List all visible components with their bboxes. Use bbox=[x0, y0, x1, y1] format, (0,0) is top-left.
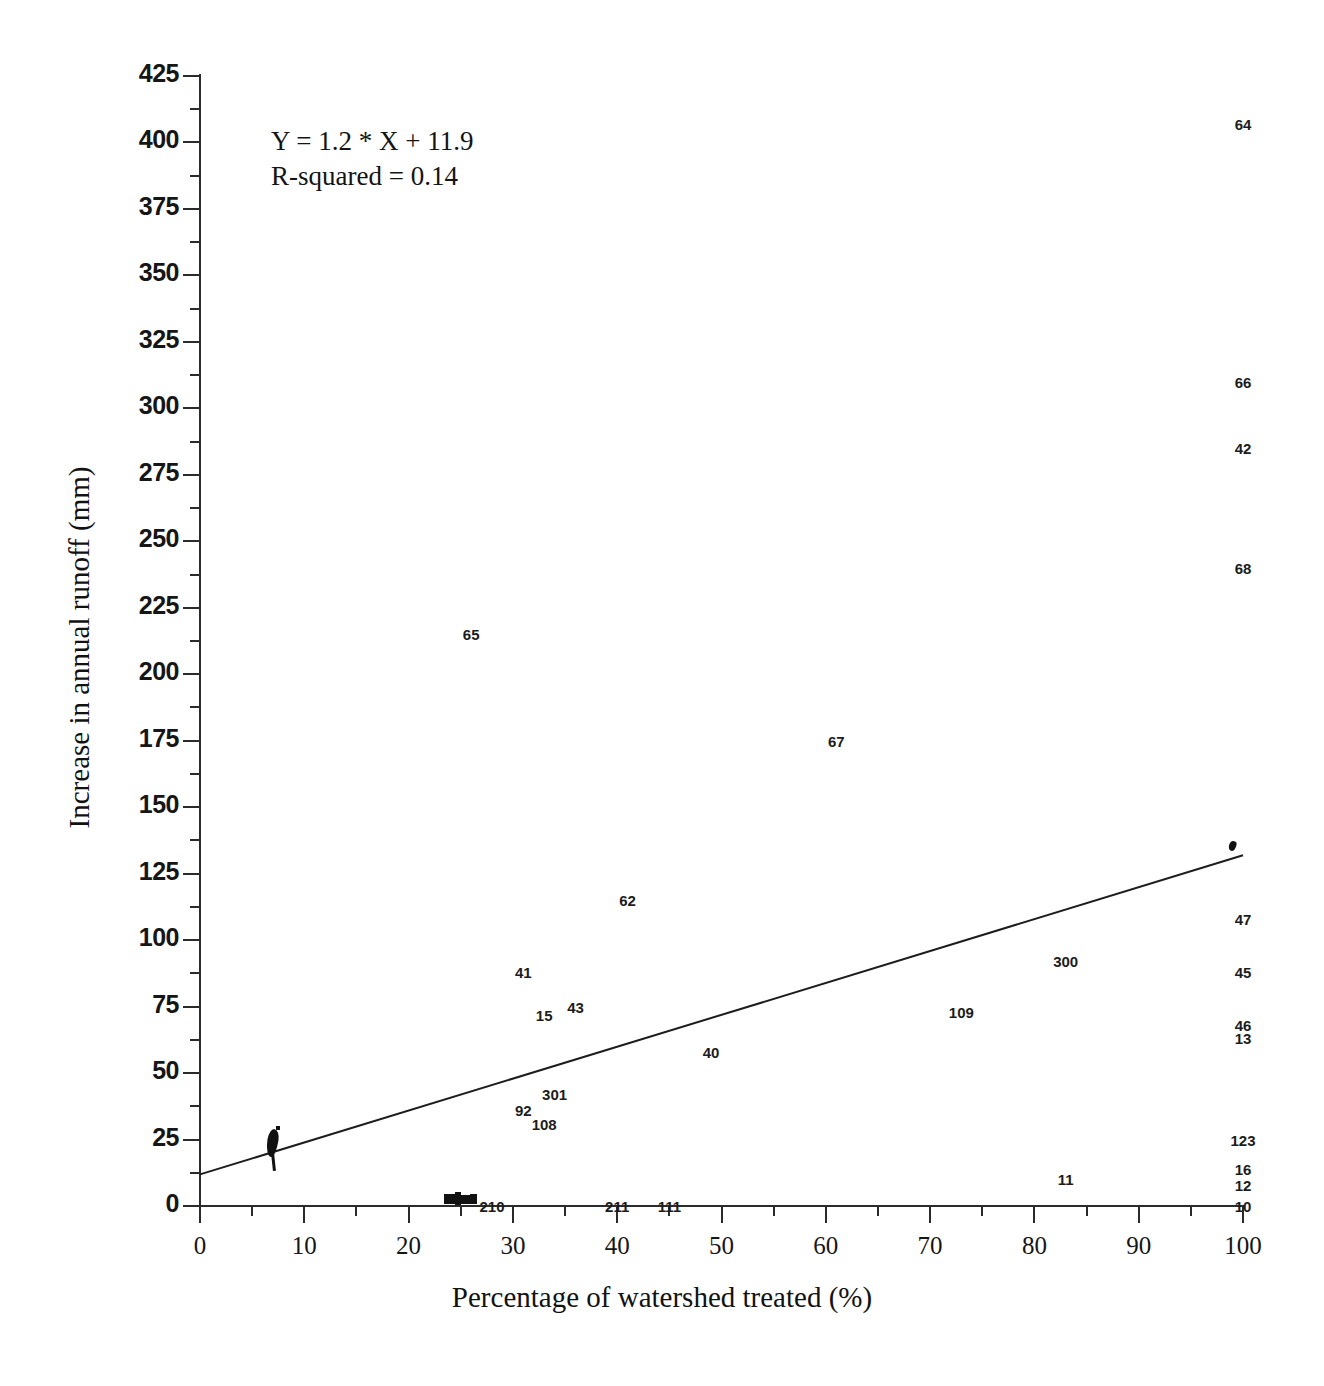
y-tick-label-425: 425 bbox=[139, 59, 179, 88]
x-tick-0 bbox=[199, 1206, 201, 1223]
data-point-label: 45 bbox=[1235, 964, 1252, 981]
data-point-label: 123 bbox=[1230, 1131, 1255, 1148]
y-minor-tick-175 bbox=[190, 706, 200, 708]
y-tick-label-125: 125 bbox=[139, 857, 179, 886]
data-point-label: 108 bbox=[532, 1115, 557, 1132]
x-tick-50 bbox=[721, 1206, 723, 1223]
y-minor-tick-150 bbox=[190, 773, 200, 775]
y-minor-tick-50 bbox=[190, 1039, 200, 1041]
y-tick-label-350: 350 bbox=[139, 258, 179, 287]
data-point-label: 43 bbox=[567, 998, 584, 1015]
y-tick-100 bbox=[183, 939, 200, 941]
y-tick-350 bbox=[183, 274, 200, 276]
overplotted-cluster-on-axis bbox=[444, 1190, 478, 1208]
r-squared-line: R-squared = 0.14 bbox=[271, 159, 473, 194]
regression-annotation: Y = 1.2 * X + 11.9 R-squared = 0.14 bbox=[271, 124, 473, 193]
cluster-blob-dot bbox=[276, 1126, 280, 1130]
y-minor-tick-25 bbox=[190, 1105, 200, 1107]
axis-cluster-mark-4 bbox=[470, 1194, 477, 1204]
x-tick-label-100: 100 bbox=[1224, 1232, 1262, 1260]
data-point-label: 301 bbox=[542, 1086, 567, 1103]
x-tick-label-0: 0 bbox=[194, 1232, 207, 1260]
y-minor-tick-275 bbox=[190, 441, 200, 443]
data-point-label: 62 bbox=[619, 892, 636, 909]
y-tick-label-50: 50 bbox=[152, 1056, 179, 1085]
y-minor-tick-125 bbox=[190, 839, 200, 841]
x-tick-10 bbox=[303, 1206, 305, 1223]
data-point-label: 47 bbox=[1235, 910, 1252, 927]
y-tick-label-25: 25 bbox=[152, 1123, 179, 1152]
y-tick-label-100: 100 bbox=[139, 923, 179, 952]
data-point-label: 16 bbox=[1235, 1160, 1252, 1177]
y-tick-label-225: 225 bbox=[139, 591, 179, 620]
data-point-label: 109 bbox=[949, 1003, 974, 1020]
data-point-label: 65 bbox=[463, 626, 480, 643]
y-tick-label-325: 325 bbox=[139, 325, 179, 354]
x-tick-80 bbox=[1033, 1206, 1035, 1223]
y-minor-tick-100 bbox=[190, 906, 200, 908]
data-point-label: 40 bbox=[703, 1043, 720, 1060]
x-tick-label-90: 90 bbox=[1126, 1232, 1151, 1260]
scatter-plot-figure: 4254003753503253002752502252001751501251… bbox=[0, 0, 1324, 1386]
data-point-label: 64 bbox=[1235, 115, 1252, 132]
x-tick-30 bbox=[512, 1206, 514, 1223]
data-point-label: 211 bbox=[605, 1198, 629, 1215]
y-tick-label-150: 150 bbox=[139, 790, 179, 819]
y-tick-125 bbox=[183, 873, 200, 875]
y-tick-label-250: 250 bbox=[139, 524, 179, 553]
data-point-label: 111 bbox=[658, 1198, 681, 1215]
y-tick-50 bbox=[183, 1072, 200, 1074]
y-minor-tick-375 bbox=[190, 175, 200, 177]
equation-line: Y = 1.2 * X + 11.9 bbox=[271, 124, 473, 159]
y-tick-label-400: 400 bbox=[139, 125, 179, 154]
x-tick-label-30: 30 bbox=[500, 1232, 525, 1260]
x-minor-tick-30 bbox=[564, 1206, 566, 1216]
data-point-label: 41 bbox=[515, 964, 532, 981]
data-point-label: 66 bbox=[1235, 373, 1252, 390]
x-minor-tick-0 bbox=[251, 1206, 253, 1216]
y-minor-tick-325 bbox=[190, 308, 200, 310]
data-point-label: 92 bbox=[515, 1102, 532, 1119]
y-tick-0 bbox=[183, 1205, 200, 1207]
y-tick-150 bbox=[183, 806, 200, 808]
y-tick-label-300: 300 bbox=[139, 391, 179, 420]
x-minor-tick-90 bbox=[1190, 1206, 1192, 1216]
y-tick-label-0: 0 bbox=[166, 1189, 179, 1218]
y-tick-label-200: 200 bbox=[139, 657, 179, 686]
x-tick-60 bbox=[825, 1206, 827, 1223]
cluster-blob-tail bbox=[271, 1153, 276, 1171]
overplotted-cluster-near-x7 bbox=[265, 1129, 281, 1169]
y-axis-title: Increase in annual runoff (mm) bbox=[63, 338, 96, 958]
y-minor-tick-250 bbox=[190, 507, 200, 509]
y-minor-tick-200 bbox=[190, 640, 200, 642]
y-minor-tick-350 bbox=[190, 241, 200, 243]
x-minor-tick-70 bbox=[981, 1206, 983, 1216]
y-minor-tick-225 bbox=[190, 574, 200, 576]
y-tick-425 bbox=[183, 75, 200, 77]
y-tick-325 bbox=[183, 341, 200, 343]
y-tick-225 bbox=[183, 607, 200, 609]
x-tick-label-50: 50 bbox=[709, 1232, 734, 1260]
y-minor-tick-0 bbox=[190, 1172, 200, 1174]
x-tick-70 bbox=[929, 1206, 931, 1223]
data-point-label: 68 bbox=[1235, 559, 1252, 576]
y-tick-label-375: 375 bbox=[139, 192, 179, 221]
x-axis-title: Percentage of watershed treated (%) bbox=[0, 1281, 1324, 1314]
data-point-label: 15 bbox=[536, 1006, 553, 1023]
x-minor-tick-60 bbox=[877, 1206, 879, 1216]
x-tick-20 bbox=[408, 1206, 410, 1223]
y-tick-175 bbox=[183, 740, 200, 742]
y-tick-375 bbox=[183, 208, 200, 210]
y-minor-tick-300 bbox=[190, 374, 200, 376]
data-point-label: 67 bbox=[828, 732, 845, 749]
x-tick-label-80: 80 bbox=[1022, 1232, 1047, 1260]
x-tick-label-10: 10 bbox=[292, 1232, 317, 1260]
x-minor-tick-80 bbox=[1086, 1206, 1088, 1216]
y-minor-tick-400 bbox=[190, 108, 200, 110]
y-tick-25 bbox=[183, 1139, 200, 1141]
x-minor-tick-10 bbox=[355, 1206, 357, 1216]
x-tick-label-20: 20 bbox=[396, 1232, 421, 1260]
x-tick-label-40: 40 bbox=[605, 1232, 630, 1260]
data-point-label: 13 bbox=[1235, 1030, 1252, 1047]
y-tick-label-175: 175 bbox=[139, 724, 179, 753]
